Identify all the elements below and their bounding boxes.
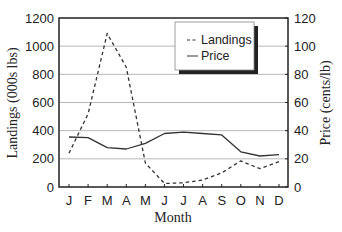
y-tick-label: 1200 bbox=[25, 11, 54, 26]
y-tick-label: 200 bbox=[32, 151, 54, 166]
y-tick-label: 800 bbox=[32, 67, 54, 82]
x-tick-label: A bbox=[122, 193, 131, 208]
x-tick-label: A bbox=[198, 193, 207, 208]
legend: Landings Price bbox=[175, 22, 258, 74]
y-tick-label: 1000 bbox=[25, 39, 54, 54]
x-tick-label: N bbox=[255, 193, 264, 208]
line-chart: JFMAMJJASOND 020040060080010001200 02040… bbox=[0, 0, 342, 232]
y-tick-label: 0 bbox=[47, 180, 54, 195]
x-tick-label: F bbox=[84, 193, 92, 208]
series-price-line bbox=[69, 132, 279, 156]
x-tick-label: O bbox=[236, 193, 246, 208]
y-tick-label: 600 bbox=[32, 95, 54, 110]
y-axis-left-ticks: 020040060080010001200 bbox=[25, 11, 54, 195]
x-tick-label: J bbox=[161, 193, 168, 208]
y2-tick-label: 40 bbox=[294, 123, 308, 138]
x-axis-title: Month bbox=[154, 210, 191, 225]
y-axis-left-title: Landings (000s lbs) bbox=[5, 47, 21, 159]
y-axis-right-title: Price (cents/lb) bbox=[318, 60, 334, 145]
legend-price-label: Price bbox=[201, 49, 230, 63]
legend-landings-label: Landings bbox=[201, 33, 252, 47]
y2-tick-label: 80 bbox=[294, 67, 308, 82]
x-tick-label: D bbox=[274, 193, 283, 208]
y2-tick-label: 120 bbox=[294, 11, 316, 26]
y2-tick-label: 60 bbox=[294, 95, 308, 110]
x-tick-label: S bbox=[217, 193, 226, 208]
y2-tick-label: 100 bbox=[294, 39, 316, 54]
y2-tick-label: 20 bbox=[294, 151, 308, 166]
x-tick-label: J bbox=[180, 193, 187, 208]
x-tick-label: M bbox=[140, 193, 151, 208]
y2-tick-label: 0 bbox=[294, 180, 301, 195]
y-axis-right-ticks: 020406080100120 bbox=[285, 11, 316, 195]
x-tick-label: M bbox=[102, 193, 113, 208]
y-tick-label: 400 bbox=[32, 123, 54, 138]
x-tick-label: J bbox=[66, 193, 73, 208]
